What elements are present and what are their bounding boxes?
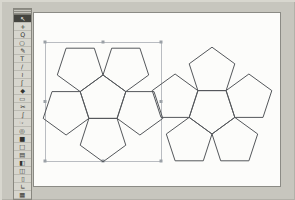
line-tool[interactable]: / xyxy=(14,63,31,71)
filled-rect-tool-icon: ■ xyxy=(20,135,26,142)
text-tool-icon: T xyxy=(21,55,25,62)
gradient-tool[interactable]: ◧ xyxy=(14,159,31,167)
selection-handle[interactable] xyxy=(160,160,163,163)
pencil-tool-icon: ʃ xyxy=(21,79,23,86)
filled-rect-tool[interactable]: ■ xyxy=(14,135,31,143)
pencil-tool[interactable]: ʃ xyxy=(14,79,31,87)
dodecahedron-net-left-half-petal-pentagon[interactable] xyxy=(80,118,126,161)
zoom-tool-icon: Q xyxy=(20,31,25,38)
direct-select-tool[interactable]: + xyxy=(14,23,31,31)
selection-handle[interactable] xyxy=(44,100,47,103)
selection-handle[interactable] xyxy=(102,41,105,44)
curve-tool-icon: ≀ xyxy=(21,71,23,78)
dodecahedron-net-left-half-petal-pentagon[interactable] xyxy=(43,92,89,135)
scissors-tool[interactable]: ✂ xyxy=(14,103,31,111)
curve-tool[interactable]: ≀ xyxy=(14,71,31,79)
measure-tool[interactable]: ∟ xyxy=(14,183,31,191)
dodecahedron-net-right-half-petal-pentagon[interactable] xyxy=(226,74,272,117)
column-tool-icon: ◫ xyxy=(20,167,26,174)
selection-handle[interactable] xyxy=(44,41,47,44)
dodecahedron-net-right-half-petal-pentagon[interactable] xyxy=(189,47,235,90)
zoom-tool[interactable]: Q xyxy=(14,31,31,39)
selection-handle[interactable] xyxy=(160,41,163,44)
selection-handle[interactable] xyxy=(160,100,163,103)
column-tool[interactable]: ◫ xyxy=(14,167,31,175)
pen-tool[interactable]: ✎ xyxy=(14,47,31,55)
blend-tool-icon: ◎ xyxy=(20,127,25,134)
spiral-tool[interactable]: ∫ xyxy=(14,111,31,119)
selection-tool[interactable]: ↖ xyxy=(14,15,31,23)
dodecahedron-net-left-half-petal-pentagon[interactable] xyxy=(117,92,163,135)
toolbar-tools: ↖+Q○✎T/≀ʃ◆▭✂∫☞◎■□▤◧◫▯∟▦ xyxy=(14,15,31,199)
pen-tool-icon: ✎ xyxy=(20,47,25,54)
eraser-tool-icon: ▭ xyxy=(20,95,26,102)
page-tool[interactable]: ▯ xyxy=(14,175,31,183)
direct-select-tool-icon: + xyxy=(20,23,25,30)
brush-tool[interactable]: ◆ xyxy=(14,87,31,95)
hand-tool[interactable]: ☞ xyxy=(14,119,31,127)
dodecahedron-net-left-half-petal-pentagon[interactable] xyxy=(103,48,149,91)
line-tool-icon: / xyxy=(21,63,23,70)
page-tool-icon: ▯ xyxy=(21,175,24,182)
rect-tool[interactable]: □ xyxy=(14,143,31,151)
app-window: ↖+Q○✎T/≀ʃ◆▭✂∫☞◎■□▤◧◫▯∟▦ xyxy=(0,0,295,200)
hand-tool-icon: ☞ xyxy=(20,119,26,126)
blend-tool[interactable]: ◎ xyxy=(14,127,31,135)
graph-tool-icon: ▦ xyxy=(20,191,26,198)
ellipse-tool-icon: ○ xyxy=(20,39,25,46)
graph-tool[interactable]: ▦ xyxy=(14,191,31,199)
brush-tool-icon: ◆ xyxy=(20,87,25,94)
pattern-tool-icon: ▤ xyxy=(20,151,26,158)
rect-tool-icon: □ xyxy=(20,143,26,150)
dodecahedron-net-right-half-petal-pentagon[interactable] xyxy=(212,117,258,160)
tool-palette: ↖+Q○✎T/≀ʃ◆▭✂∫☞◎■□▤◧◫▯∟▦ xyxy=(13,8,32,200)
dodecahedron-net-right-half-petal-pentagon[interactable] xyxy=(152,74,198,117)
dodecahedron-net-right-half-petal-pentagon[interactable] xyxy=(166,117,212,160)
spiral-tool-icon: ∫ xyxy=(21,111,24,118)
ellipse-tool[interactable]: ○ xyxy=(14,39,31,47)
drawing-overlay xyxy=(0,0,295,200)
text-tool[interactable]: T xyxy=(14,55,31,63)
selection-tool-icon: ↖ xyxy=(20,15,25,22)
selection-handle[interactable] xyxy=(44,160,47,163)
gradient-tool-icon: ◧ xyxy=(20,159,26,166)
measure-tool-icon: ∟ xyxy=(20,183,25,190)
pattern-tool[interactable]: ▤ xyxy=(14,151,31,159)
dodecahedron-net-left-half-petal-pentagon[interactable] xyxy=(57,48,103,91)
eraser-tool[interactable]: ▭ xyxy=(14,95,31,103)
scissors-tool-icon: ✂ xyxy=(20,103,25,110)
